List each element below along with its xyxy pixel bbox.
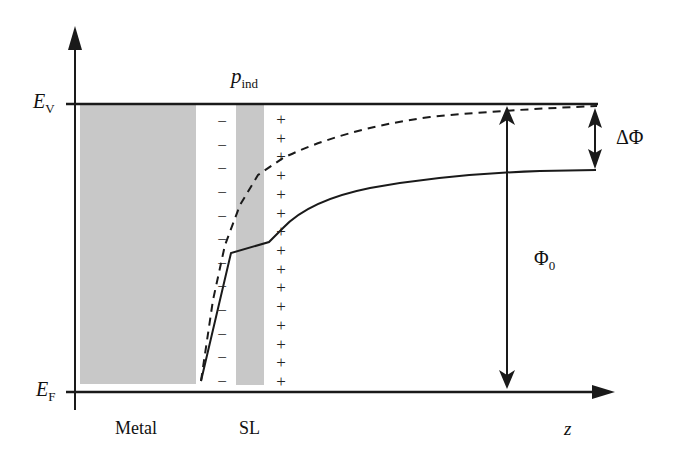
diagram-canvas bbox=[0, 0, 673, 460]
positive-charge-sign: + bbox=[276, 223, 286, 240]
negative-charge-sign: − bbox=[217, 373, 227, 390]
spacer-layer-label: SL bbox=[239, 418, 260, 439]
positive-charge-sign: + bbox=[276, 167, 286, 184]
positive-charge-sign: + bbox=[276, 316, 286, 333]
fermi-level-label: EF bbox=[36, 378, 55, 401]
z-axis-label: z bbox=[564, 418, 571, 440]
negative-charge-sign: − bbox=[217, 183, 227, 200]
negative-charge-sign: − bbox=[217, 207, 227, 224]
phi0-subscript: 0 bbox=[549, 258, 556, 273]
positive-charge-sign: + bbox=[276, 148, 286, 165]
fermi-level-symbol: E bbox=[36, 378, 48, 400]
vacuum-level-symbol: E bbox=[33, 90, 45, 112]
positive-charge-sign: + bbox=[276, 354, 286, 371]
negative-charge-sign: − bbox=[217, 231, 227, 248]
positive-charge-sign: + bbox=[276, 242, 286, 259]
metal-label: Metal bbox=[115, 418, 157, 439]
fermi-level-subscript: F bbox=[48, 389, 55, 404]
vacuum-level-subscript: V bbox=[45, 101, 54, 116]
positive-charge-sign: + bbox=[276, 185, 286, 202]
y-axis-arrowhead-icon bbox=[68, 26, 82, 50]
negative-charge-sign: − bbox=[217, 278, 227, 295]
negative-charge-sign: − bbox=[217, 136, 227, 153]
dipole-subscript: ind bbox=[242, 76, 259, 91]
positive-charge-sign: + bbox=[276, 373, 286, 390]
negative-charge-sign: − bbox=[217, 349, 227, 366]
negative-charge-sign: − bbox=[217, 254, 227, 271]
metal-region bbox=[80, 105, 196, 384]
dipole-symbol: p bbox=[231, 64, 242, 88]
positive-charge-sign: + bbox=[276, 298, 286, 315]
negative-charge-sign: − bbox=[217, 325, 227, 342]
energy-diagram: −−−−−−−−−−−− +++++++++++++++ EV EF pind … bbox=[0, 0, 673, 460]
positive-charge-sign: + bbox=[276, 279, 286, 296]
vacuum-level-label: EV bbox=[33, 90, 55, 113]
positive-charge-sign: + bbox=[276, 260, 286, 277]
positive-charge-sign: + bbox=[276, 204, 286, 221]
positive-charge-sign: + bbox=[276, 129, 286, 146]
dipole-label: pind bbox=[231, 64, 258, 89]
negative-charge-sign: − bbox=[217, 160, 227, 177]
x-axis-arrowhead-icon bbox=[592, 385, 615, 399]
phi0-symbol: Φ bbox=[534, 247, 549, 269]
negative-charge-sign: − bbox=[217, 113, 227, 130]
delta-phi-label: ΔΦ bbox=[616, 126, 643, 149]
positive-charge-sign: + bbox=[276, 335, 286, 352]
phi0-label: Φ0 bbox=[534, 247, 555, 270]
positive-charge-sign: + bbox=[276, 111, 286, 128]
negative-charge-sign: − bbox=[217, 302, 227, 319]
